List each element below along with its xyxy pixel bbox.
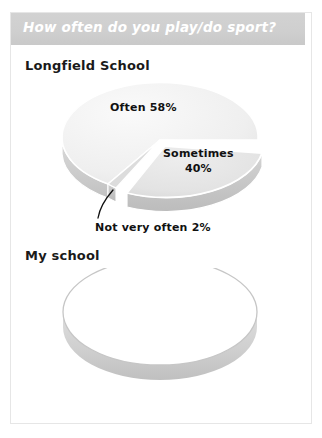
empty-disc-top <box>63 268 257 365</box>
pie-label-not-very-often: Not very often 2% <box>95 221 211 234</box>
pie-label-often: Often 58% <box>110 101 177 114</box>
section-heading-my-school: My school <box>25 248 100 263</box>
pie-label-sometimes-line2: 40% <box>163 161 234 176</box>
pie-label-sometimes-line1: Sometimes <box>163 146 234 161</box>
pie-chart-longfield-svg <box>0 70 322 240</box>
pie-label-sometimes: Sometimes 40% <box>163 146 234 176</box>
header-banner: How often do you play/do sport? <box>11 13 305 45</box>
worksheet-page: How often do you play/do sport? Longfiel… <box>0 0 322 438</box>
pie-chart-my-school <box>0 268 322 403</box>
pie-chart-my-school-svg <box>0 268 322 403</box>
pie-chart-longfield <box>0 70 322 240</box>
page-title: How often do you play/do sport? <box>23 19 276 35</box>
